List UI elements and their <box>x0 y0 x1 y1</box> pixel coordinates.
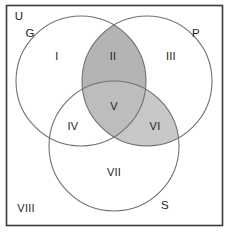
region-vii: VII <box>107 166 121 178</box>
set-g-label: G <box>25 27 34 39</box>
region-iii: III <box>166 50 176 62</box>
region-viii: VIII <box>17 202 34 214</box>
venn-diagram-figure: U G P S I II III IV V VI VII VIII <box>0 0 229 232</box>
region-ii: II <box>110 50 117 62</box>
set-s-label: S <box>161 199 169 211</box>
region-v: V <box>110 100 118 112</box>
set-p-label: P <box>192 27 200 39</box>
region-vi: VI <box>150 120 161 132</box>
universal-set-label: U <box>15 10 24 22</box>
venn-diagram-canvas: U G P S I II III IV V VI VII VIII <box>0 0 229 232</box>
region-iv: IV <box>68 120 79 132</box>
region-i: I <box>55 50 58 62</box>
